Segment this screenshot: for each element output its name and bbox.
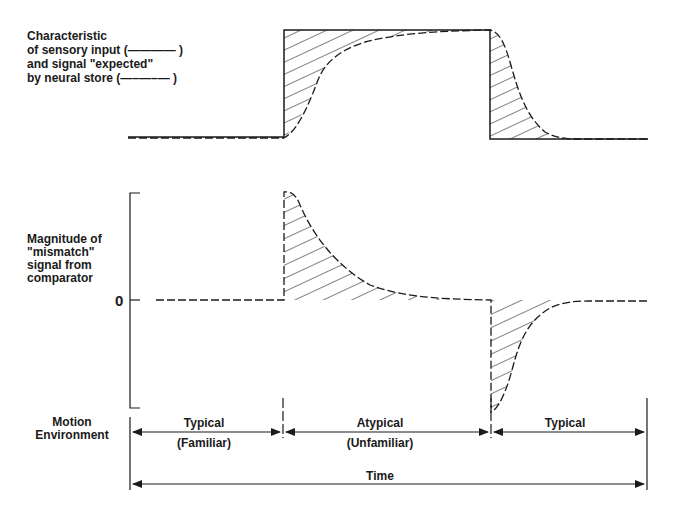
- expected-signal-line: [128, 30, 648, 139]
- sensory-input-plot: [128, 30, 648, 139]
- segment-title: Atypical: [357, 416, 404, 430]
- mismatch-area-falling: [490, 30, 570, 139]
- label-line: "mismatch": [27, 245, 94, 259]
- label-line: of sensory input (———— ): [27, 43, 183, 57]
- label-line: Magnitude of: [27, 232, 103, 246]
- mismatch-negative-area: [491, 300, 565, 412]
- mismatch-plot: [156, 192, 647, 412]
- row-label-line: Motion: [52, 415, 91, 429]
- mismatch-axis: [130, 193, 140, 408]
- row-label-line: Environment: [35, 428, 108, 442]
- timeline: Motion Environment Typical (Familiar) At…: [35, 398, 647, 490]
- label-line: comparator: [27, 271, 93, 285]
- segment-subtitle: (Unfamiliar): [347, 436, 414, 450]
- time-axis-label: Time: [366, 469, 394, 483]
- segment-title: Typical: [184, 416, 224, 430]
- top-panel-label: Characteristic of sensory input (———— ) …: [27, 29, 183, 85]
- label-line: Characteristic: [27, 29, 107, 43]
- segment-title: Typical: [545, 416, 585, 430]
- label-line: signal from: [27, 258, 92, 272]
- zero-label: 0: [115, 292, 123, 309]
- mismatch-area-rising: [284, 30, 470, 137]
- label-line: by neural store (—–—–— ): [27, 71, 177, 85]
- mismatch-positive-area: [284, 192, 460, 300]
- segment-subtitle: (Familiar): [177, 436, 231, 450]
- sensory-input-line: [128, 30, 648, 139]
- sensory-conflict-diagram: Characteristic of sensory input (———— ) …: [0, 0, 674, 523]
- label-line: and signal "expected": [27, 57, 153, 71]
- mismatch-signal-line: [156, 192, 647, 412]
- bottom-panel-label: Magnitude of "mismatch" signal from comp…: [27, 232, 123, 309]
